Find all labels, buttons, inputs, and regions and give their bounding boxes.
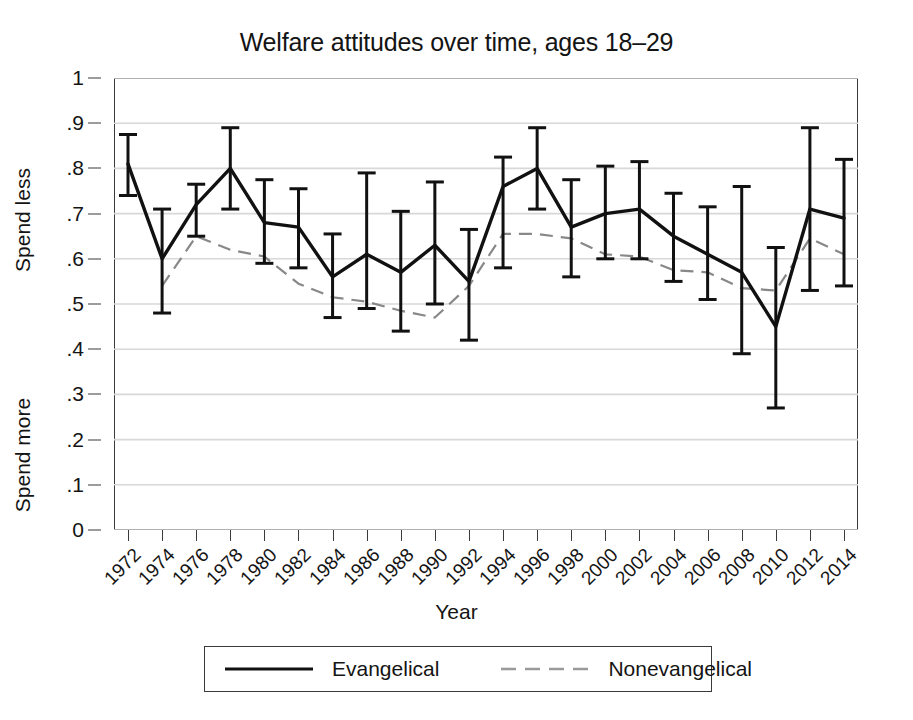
series-line-evangelical <box>128 164 844 327</box>
x-tick-mark <box>571 530 572 541</box>
x-tick-mark <box>298 530 299 541</box>
y-tick-label: .6 <box>66 247 84 271</box>
solid-line-icon <box>223 662 315 676</box>
y-tick-mark <box>88 439 101 440</box>
y-tick-mark <box>88 394 101 395</box>
x-tick-mark <box>128 530 129 541</box>
y-tick-label: .5 <box>66 292 84 316</box>
chart-legend: Evangelical Nonevangelical <box>204 646 712 692</box>
y-tick-mark <box>88 484 101 485</box>
x-tick-mark <box>503 530 504 541</box>
y-tick-label: .7 <box>66 202 84 226</box>
y-tick-mark <box>88 349 101 350</box>
x-tick-mark <box>401 530 402 541</box>
y-axis-title-spend-less: Spend less <box>11 135 35 305</box>
y-tick-label: .8 <box>66 156 84 180</box>
y-tick-label: .4 <box>66 337 84 361</box>
y-tick-mark <box>88 304 101 305</box>
y-axis-title-spend-more: Spend more <box>11 370 35 540</box>
legend-entry-evangelical: Evangelical <box>223 647 439 691</box>
y-tick-mark <box>88 258 101 259</box>
legend-label-evangelical: Evangelical <box>332 657 439 681</box>
x-tick-mark <box>844 530 845 541</box>
y-tick-mark <box>88 530 101 531</box>
y-tick-label: .3 <box>66 382 84 406</box>
dashed-line-icon <box>499 662 591 676</box>
x-tick-mark <box>708 530 709 541</box>
y-tick-mark <box>88 123 101 124</box>
legend-entry-nonevangelical: Nonevangelical <box>499 647 752 691</box>
legend-label-nonevangelical: Nonevangelical <box>608 657 752 681</box>
x-axis-title: Year <box>0 600 913 624</box>
x-tick-mark <box>196 530 197 541</box>
y-tick-label: 1 <box>72 66 84 90</box>
x-tick-mark <box>435 530 436 541</box>
x-tick-mark <box>742 530 743 541</box>
x-axis: 1972197419761978198019821984198619881990… <box>114 530 858 600</box>
y-tick-mark <box>88 78 101 79</box>
y-tick-label: .2 <box>66 428 84 452</box>
chart-figure: Welfare attitudes over time, ages 18–29 … <box>0 0 913 720</box>
plot-canvas <box>114 78 858 530</box>
x-tick-mark <box>162 530 163 541</box>
x-tick-mark <box>674 530 675 541</box>
gridlines <box>114 78 858 530</box>
y-tick-label: .9 <box>66 111 84 135</box>
y-tick-label: 0 <box>72 518 84 542</box>
y-tick-mark <box>88 168 101 169</box>
chart-title: Welfare attitudes over time, ages 18–29 <box>0 28 913 57</box>
x-tick-mark <box>264 530 265 541</box>
x-tick-mark <box>367 530 368 541</box>
x-tick-mark <box>639 530 640 541</box>
plot-area <box>114 78 858 530</box>
x-tick-mark <box>605 530 606 541</box>
x-tick-mark <box>810 530 811 541</box>
x-tick-mark <box>333 530 334 541</box>
x-tick-mark <box>537 530 538 541</box>
x-tick-mark <box>776 530 777 541</box>
y-tick-mark <box>88 213 101 214</box>
y-axis: Spend less Spend more 0.1.2.3.4.5.6.7.8.… <box>0 78 114 530</box>
x-tick-mark <box>469 530 470 541</box>
x-tick-mark <box>230 530 231 541</box>
y-tick-label: .1 <box>66 473 84 497</box>
